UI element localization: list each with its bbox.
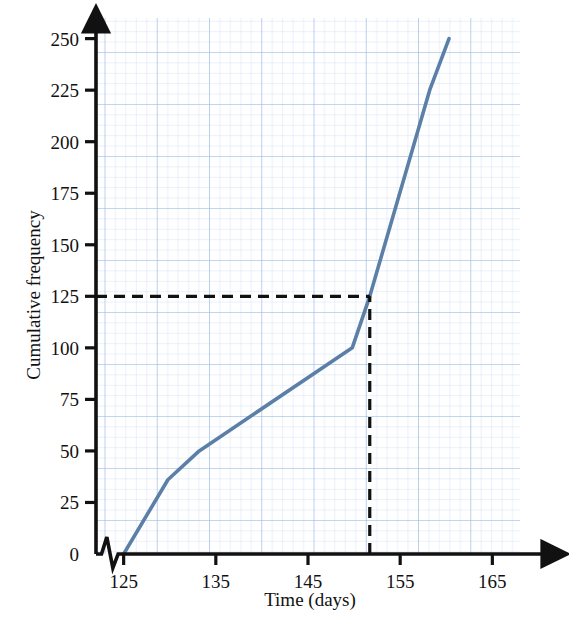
x-axis-label: Time (days) [264, 589, 356, 611]
x-tick-label-125: 125 [109, 571, 138, 592]
y-tick-label-250: 250 [51, 29, 80, 50]
y-tick-label-75: 75 [60, 389, 79, 410]
x-tick-label-155: 155 [386, 571, 415, 592]
x-tick-label-165: 165 [478, 571, 507, 592]
y-tick-label-0: 0 [70, 544, 80, 565]
x-tick-label-135: 135 [202, 571, 231, 592]
y-axis-label: Cumulative frequency [23, 210, 44, 380]
y-tick-label-125: 125 [51, 286, 80, 307]
y-tick-label-150: 150 [51, 235, 80, 256]
chart-figure: 0255075100125150175200225250 12513514515… [0, 0, 569, 618]
plot-grid [96, 18, 520, 554]
y-tick-label-25: 25 [60, 492, 79, 513]
y-tick-label-100: 100 [51, 338, 80, 359]
y-tick-label-50: 50 [60, 441, 79, 462]
y-tick-label-175: 175 [51, 183, 80, 204]
y-axis-tick-labels: 0255075100125150175200225250 [51, 29, 80, 565]
y-tick-label-225: 225 [51, 80, 80, 101]
y-tick-label-200: 200 [51, 132, 80, 153]
cumulative-frequency-chart: 0255075100125150175200225250 12513514515… [0, 0, 569, 618]
